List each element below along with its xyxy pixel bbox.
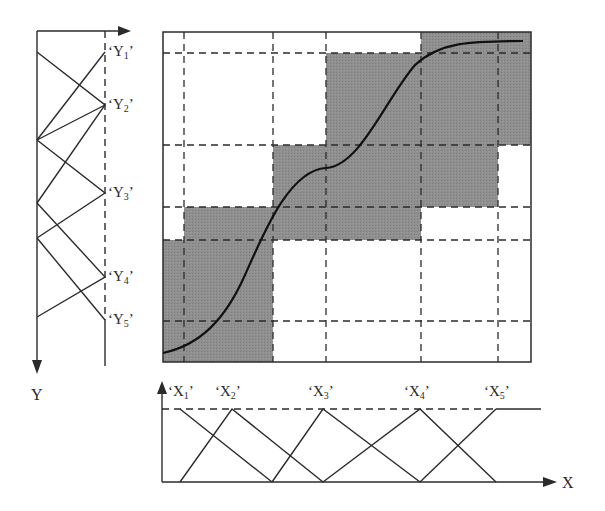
label-y2: ‘Y2’: [108, 97, 134, 114]
x-axis-label: X: [562, 475, 574, 491]
label-x3: ‘X3’: [308, 384, 334, 401]
membership-axis-arrow-icon: [118, 26, 131, 36]
y2-rise: [37, 105, 105, 140]
label-y5: ‘Y5’: [108, 312, 134, 329]
y-axis-label: Y: [31, 387, 43, 403]
label-x4: ‘X4’: [404, 384, 430, 401]
x1-membership: [180, 409, 272, 482]
y4-membership: [37, 203, 105, 317]
y5-membership: [37, 238, 105, 320]
label-x2: ‘X2’: [215, 384, 241, 401]
fuzzy-approximation-diagram: [0, 0, 605, 511]
label-y1: ‘Y1’: [108, 44, 134, 61]
patch-x2-y4: [184, 207, 421, 240]
label-x5: ‘X5’: [484, 384, 510, 401]
x4-membership: [323, 409, 496, 482]
label-y3: ‘Y3’: [108, 185, 134, 202]
rule-patches: [163, 32, 531, 362]
x3-membership: [272, 409, 420, 482]
patch-x1-y5: [163, 240, 273, 362]
y-axis-arrow-icon: [32, 360, 42, 374]
patch-x4-y2: [326, 53, 531, 145]
x-axis-arrow-icon: [543, 477, 557, 487]
label-x1: ‘X1’: [168, 384, 194, 401]
x2-membership: [180, 409, 323, 482]
y1-membership: [37, 52, 105, 140]
label-y4: ‘Y4’: [108, 269, 134, 286]
membership-up-arrow-icon: [157, 381, 167, 394]
